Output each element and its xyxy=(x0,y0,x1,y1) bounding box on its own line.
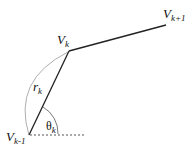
label-v-km1: Vk-1 xyxy=(6,129,25,146)
label-v-k: Vk xyxy=(57,32,70,49)
polyline-diagram: Vk-1 Vk Vk+1 rk θk xyxy=(0,0,195,153)
label-radius: rk xyxy=(33,79,43,96)
segment-vk-vkp1 xyxy=(69,25,166,51)
label-angle: θk xyxy=(46,119,57,135)
label-v-kp1: Vk+1 xyxy=(163,6,186,23)
